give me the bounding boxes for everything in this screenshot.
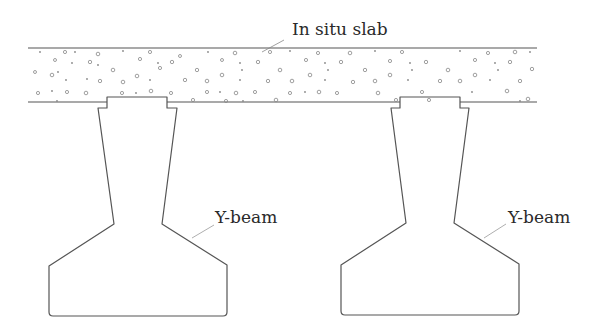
slab-leader-line — [262, 40, 284, 52]
y-beam-right-label: Y-beam — [508, 207, 570, 227]
diagram-canvas — [0, 0, 604, 332]
y-beam-left-label: Y-beam — [215, 207, 277, 227]
y-beam-left — [49, 97, 227, 316]
slab-aggregate-specks — [39, 50, 531, 102]
beam-right-leader-line — [484, 224, 506, 238]
in-situ-slab — [28, 48, 537, 102]
slab-label: In situ slab — [292, 19, 388, 39]
slab-aggregate-hatch — [34, 50, 534, 102]
y-beam-right — [341, 97, 519, 315]
beam-left-leader-line — [192, 225, 214, 238]
